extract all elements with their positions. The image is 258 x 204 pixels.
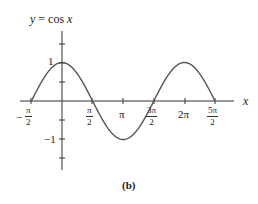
x-axis-label: x: [243, 95, 248, 107]
x-tick-label-5pi-half: 5π 2: [207, 106, 218, 127]
x-tick-label-pi-half: π 2: [86, 106, 93, 127]
y-tick-label-neg1: −1: [44, 134, 56, 145]
chart-title: y = cos x: [30, 12, 72, 27]
x-tick-label-3pi-half: 3π 2: [146, 106, 157, 127]
x-tick-label-pi: π: [119, 109, 125, 120]
y-tick-label-1: 1: [48, 56, 54, 67]
x-tick-label-neg-pi-half: π 2: [25, 106, 32, 127]
x-tick-minus-sign: −: [16, 111, 22, 123]
cosine-plot: [0, 0, 258, 204]
x-tick-label-2pi: 2π: [178, 109, 189, 120]
figure-caption: (b): [122, 179, 135, 191]
